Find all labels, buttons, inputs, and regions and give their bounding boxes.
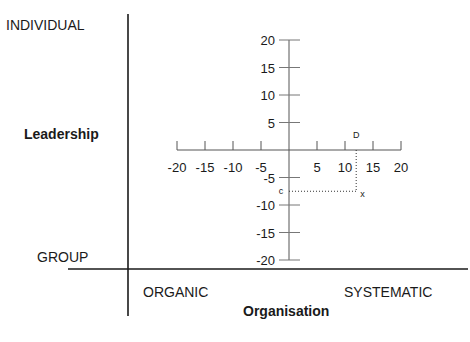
y-top-label: INDIVIDUAL [6, 17, 85, 33]
x-right-label: SYSTEMATIC [344, 284, 432, 300]
inner-plot: -20-15-10-551015202015105-5-10-15-20xcD [168, 33, 409, 268]
point-label: x [360, 189, 365, 199]
projection-label-d: D [353, 130, 360, 140]
y-bottom-label: GROUP [37, 249, 88, 265]
x-left-label: ORGANIC [143, 284, 208, 300]
x-tick-label: -10 [224, 160, 243, 175]
y-tick-label: 10 [261, 88, 275, 103]
y-tick-label: -15 [256, 226, 275, 241]
y-tick-label: -20 [256, 253, 275, 268]
y-tick-label: 15 [261, 61, 275, 76]
x-tick-label: 5 [313, 160, 320, 175]
y-tick-label: -10 [256, 198, 275, 213]
x-tick-label: -20 [168, 160, 187, 175]
x-axis-title: Organisation [243, 303, 329, 319]
x-tick-label: -15 [196, 160, 215, 175]
y-tick-label: 20 [261, 33, 275, 48]
x-tick-label: 20 [394, 160, 408, 175]
y-axis-title: Leadership [24, 126, 99, 142]
y-tick-label: -5 [263, 171, 275, 186]
y-tick-label: 5 [268, 116, 275, 131]
chart: INDIVIDUAL Leadership GROUP ORGANIC SYST… [0, 0, 470, 342]
projection-label-c: c [279, 186, 284, 196]
x-tick-label: 15 [366, 160, 380, 175]
x-tick-label: 10 [338, 160, 352, 175]
